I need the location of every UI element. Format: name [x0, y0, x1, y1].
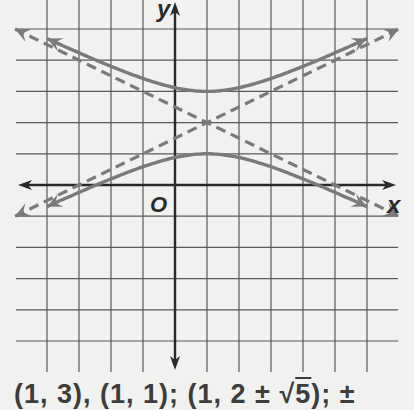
sqrt-symbol: √ [279, 379, 295, 409]
answer-text: (1, 3), (1, 1); (1, 2 ± √5); ± [14, 379, 356, 410]
asymptote-arrow-icon [15, 29, 32, 42]
asymptote-arrow-icon [382, 29, 399, 42]
asymptote-arrow-icon [15, 203, 32, 216]
answer-part-1: (1, 3), (1, 1); (1, 2 ± [14, 379, 279, 409]
y-axis-label: y [156, 0, 172, 22]
answer-part-2: ); ± [311, 379, 355, 409]
origin-label: O [150, 192, 167, 217]
x-axis-label: x [385, 191, 402, 218]
radicand: 5 [295, 379, 311, 409]
